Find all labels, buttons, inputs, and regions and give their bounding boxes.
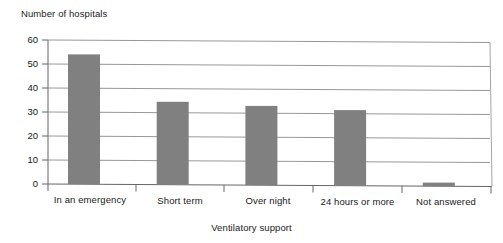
bar-not-answered [423,183,455,187]
bar-24-hours-or-more [334,110,366,186]
y-tick-label-0: 0 [14,179,38,189]
x-category-label-in-an-emergency: In an emergency [44,194,136,205]
x-category-label-short-term: Short term [134,195,226,206]
bar-in-an-emergency [68,54,100,184]
x-category-label-24-hours-or-more: 24 hours or more [309,196,406,207]
y-tick-label-20: 20 [14,131,38,141]
bar-short-term [157,102,189,185]
plot-right-border [490,43,492,187]
gridline-60 [48,40,490,43]
x-category-label-over-night: Over night [222,195,314,206]
y-tick-label-10: 10 [14,155,38,165]
y-tick-label-50: 50 [14,59,38,69]
gridline-50 [48,64,490,67]
gridline-40 [48,88,490,91]
x-axis-title: Ventilatory support [0,222,503,233]
bar-over-night [245,106,277,185]
y-axis-ticks [42,40,48,184]
y-tick-label-60: 60 [14,35,38,45]
x-category-label-not-answered: Not answered [400,196,492,207]
y-tick-label-30: 30 [14,107,38,117]
bar-chart: Number of hospitals [0,0,503,243]
y-tick-label-40: 40 [14,83,38,93]
bars [68,54,455,186]
